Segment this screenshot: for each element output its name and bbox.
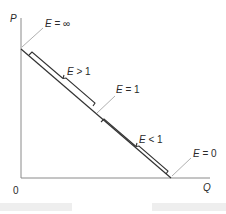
elastic-bracket [29, 52, 95, 106]
label-e-unit: E = 1 [116, 84, 140, 95]
elasticity-diagram: P Q 0 E = ∞ E > 1 E = 1 E < 1 E = 0 [0, 0, 226, 214]
label-e-infinity: E = ∞ [45, 18, 70, 29]
y-axis-label: P [10, 13, 17, 24]
label-e-greater: E > 1 [67, 66, 91, 77]
demand-curve [21, 49, 171, 178]
leader-e-unit [97, 96, 115, 113]
bottom-strip-left [0, 203, 72, 211]
label-e-zero: E = 0 [193, 148, 217, 159]
bottom-strip-right [152, 203, 226, 211]
label-e-less: E < 1 [139, 134, 163, 145]
origin-label: 0 [13, 185, 19, 196]
leader-e-zero [172, 158, 191, 176]
x-axis-label: Q [203, 182, 211, 193]
leader-e-infinity [22, 28, 43, 47]
